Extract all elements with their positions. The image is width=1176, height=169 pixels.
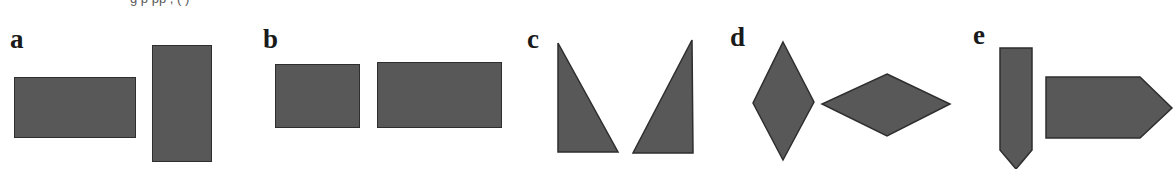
shape-e-down-pointing-pentagon	[1000, 48, 1032, 169]
shape-e-right-pointing-pentagon	[1046, 77, 1172, 138]
shape-e-pentagon-group	[0, 0, 1176, 169]
shape-pair-figure: g p pp , ( ) a b c d e	[0, 0, 1176, 169]
